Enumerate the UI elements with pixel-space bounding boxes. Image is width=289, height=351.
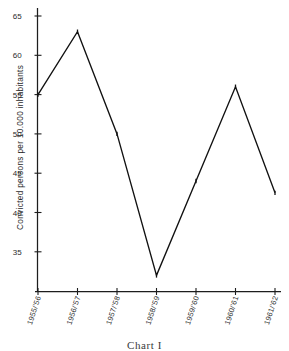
- x-tick-label: 1957/'58: [104, 295, 122, 326]
- line-chart-canvas: Convicted persons per 10.000 inhabitants…: [0, 0, 289, 351]
- data-series-line: [38, 32, 275, 276]
- y-tick-label: 60: [13, 51, 23, 60]
- x-tick-label: 1961/'62: [262, 295, 280, 326]
- x-tick-label: 1960/'61: [223, 295, 241, 326]
- y-tick-label: 50: [13, 130, 23, 139]
- y-tick-label: 45: [13, 169, 23, 178]
- x-tick-label: 1955/'56: [25, 295, 43, 326]
- y-tick-label: 40: [13, 209, 23, 218]
- figure-caption: Chart I: [0, 338, 289, 351]
- x-axis-labels: 1955/'56 1956/'57 1957/'58 1958/'59 1959…: [25, 295, 280, 326]
- data-point-markers: [38, 30, 275, 278]
- x-tick-label: 1959/'60: [183, 295, 201, 326]
- y-tick-label: 55: [13, 91, 23, 100]
- x-tick-label: 1956/'57: [65, 295, 83, 326]
- y-tick-label: 65: [13, 12, 23, 21]
- x-tick-label: 1958/'59: [144, 295, 162, 326]
- y-tick-label: 35: [13, 248, 23, 257]
- chart-figure: Convicted persons per 10.000 inhabitants…: [0, 0, 289, 351]
